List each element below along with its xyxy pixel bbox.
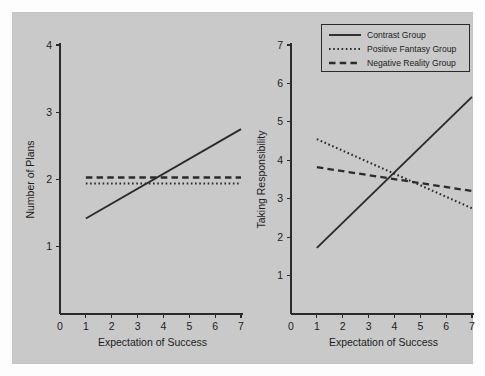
x-tick-label: 0: [57, 320, 63, 332]
series-line-dotted: [317, 139, 472, 208]
x-tick-label: 5: [186, 320, 192, 332]
x-tick-label: 2: [340, 320, 346, 332]
chart-svg-right: 123456701234567Expectation of SuccessTak…: [243, 12, 473, 364]
x-tick-label: 1: [83, 320, 89, 332]
chart-panel-right: 123456701234567Expectation of SuccessTak…: [243, 12, 473, 364]
y-tick-label: 5: [277, 115, 283, 127]
y-axis-title: Taking Responsibility: [255, 130, 267, 229]
figure-canvas: 123401234567Expectation of SuccessNumber…: [0, 0, 485, 376]
series-line-solid: [317, 97, 472, 248]
x-tick-label: 1: [314, 320, 320, 332]
y-tick-label: 1: [46, 240, 52, 252]
x-tick-label: 4: [392, 320, 398, 332]
series-line-solid: [86, 129, 241, 218]
x-tick-label: 6: [212, 320, 218, 332]
y-tick-label: 2: [46, 173, 52, 185]
y-tick-label: 3: [46, 106, 52, 118]
y-tick-label: 4: [46, 39, 52, 51]
x-tick-label: 3: [366, 320, 372, 332]
y-tick-label: 4: [277, 154, 283, 166]
series-line-dashed: [317, 167, 472, 191]
legend-label: Negative Reality Group: [367, 58, 456, 68]
x-tick-label: 0: [288, 320, 294, 332]
chart-panel-left: 123401234567Expectation of SuccessNumber…: [12, 12, 242, 364]
legend-label: Contrast Group: [367, 30, 426, 40]
x-axis-title: Expectation of Success: [98, 336, 207, 348]
x-tick-label: 7: [469, 320, 475, 332]
y-tick-label: 7: [277, 39, 283, 51]
y-tick-label: 2: [277, 231, 283, 243]
y-axis-title: Number of Plans: [24, 140, 36, 218]
x-tick-label: 2: [109, 320, 115, 332]
x-tick-label: 4: [161, 320, 167, 332]
chart-svg-left: 123401234567Expectation of SuccessNumber…: [12, 12, 242, 364]
x-tick-label: 5: [417, 320, 423, 332]
x-axis-title: Expectation of Success: [329, 336, 438, 348]
x-tick-label: 6: [443, 320, 449, 332]
x-tick-label: 3: [135, 320, 141, 332]
legend-label: Positive Fantasy Group: [367, 44, 457, 54]
plot-area: 123401234567Expectation of SuccessNumber…: [12, 12, 473, 364]
y-tick-label: 1: [277, 269, 283, 281]
y-tick-label: 3: [277, 192, 283, 204]
y-tick-label: 6: [277, 77, 283, 89]
